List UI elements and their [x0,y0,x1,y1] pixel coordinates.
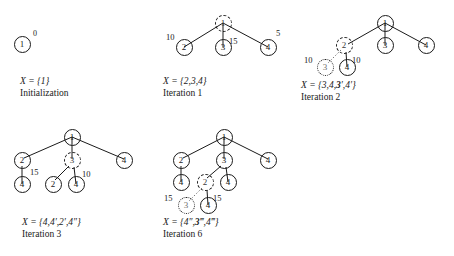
algorithm-iteration-figure: 1 0 X = {1} Initialization 1 2 3 4 10 15… [0,0,454,256]
caption-set-part-a: X = {4″, [163,217,195,227]
tree-node-2: 2 [173,152,190,169]
tree-node-3: 3 [216,152,233,169]
node-label: 3 [222,156,227,165]
tree-edges [0,0,454,256]
caption-set-line: X = {4″,3‴,4‴} [163,217,219,229]
node-label: 4 [266,156,271,165]
tree-node-4-child-b: 4 [220,174,237,191]
caption-iteration-line: Iteration 6 [163,229,219,241]
tree-node-3-pruned: 3 [178,197,195,214]
node-label: 3 [184,201,189,210]
node-label: 2 [203,178,208,187]
node-label: 4 [206,201,211,210]
panel-caption: X = {4″,3‴,4‴} Iteration 6 [163,217,219,240]
tree-node-4-child-a: 4 [173,174,190,191]
edge-weight-label: 15 [213,194,222,203]
node-label: 2 [179,156,184,165]
caption-set-part-c: ‴,4‴} [200,217,219,227]
edge-weight-label: 15 [164,194,173,203]
tree-node-2-active: 2 [197,174,214,191]
node-label: 4 [179,178,184,187]
tree-node-1: 1 [216,129,233,146]
tree-node-4: 4 [260,152,277,169]
node-label: 4 [226,178,231,187]
node-label: 1 [222,133,227,142]
